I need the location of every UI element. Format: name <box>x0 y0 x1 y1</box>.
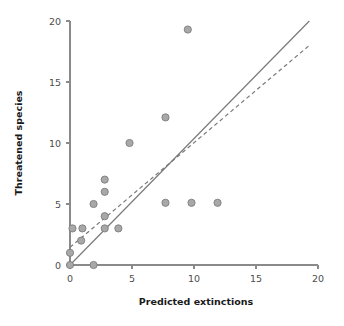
chart-canvas: 05101520 05101520 Predicted extinctions … <box>0 0 344 326</box>
data-point <box>162 199 169 206</box>
data-point <box>162 114 169 121</box>
y-tick-label: 15 <box>49 77 61 88</box>
data-point <box>78 237 85 244</box>
data-point <box>90 261 97 268</box>
data-point <box>188 199 195 206</box>
data-point <box>66 249 73 256</box>
data-point <box>126 139 133 146</box>
y-axis-label: Threatened species <box>13 90 24 195</box>
data-points <box>66 26 221 269</box>
data-point <box>79 225 86 232</box>
data-point <box>184 26 191 33</box>
x-tick-label: 10 <box>188 273 200 284</box>
data-point <box>101 188 108 195</box>
data-point <box>69 225 76 232</box>
data-point <box>214 199 221 206</box>
y-tick-label: 20 <box>49 16 61 27</box>
data-point <box>115 225 122 232</box>
x-axis-ticks: 05101520 <box>67 265 324 284</box>
scatter-chart: 05101520 05101520 Predicted extinctions … <box>0 0 344 326</box>
y-tick-label: 5 <box>55 199 61 210</box>
data-point <box>90 200 97 207</box>
x-axis-label: Predicted extinctions <box>139 296 254 307</box>
x-tick-label: 5 <box>129 273 135 284</box>
data-point <box>101 176 108 183</box>
data-point <box>101 213 108 220</box>
data-point <box>66 261 73 268</box>
y-tick-label: 0 <box>55 260 61 271</box>
x-tick-label: 15 <box>250 273 262 284</box>
y-axis-ticks: 05101520 <box>49 16 70 271</box>
x-tick-label: 0 <box>67 273 73 284</box>
y-tick-label: 10 <box>49 138 61 149</box>
x-tick-label: 20 <box>312 273 324 284</box>
data-point <box>101 225 108 232</box>
